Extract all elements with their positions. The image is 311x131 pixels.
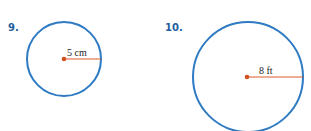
radius-label-9: 5 cm [67,47,87,58]
center-dot-9 [62,57,67,62]
center-dot-10 [245,75,250,80]
circle-figure-10: 8 ft [193,22,303,131]
circle-figure-9: 5 cm [27,22,101,96]
radius-label-10: 8 ft [259,65,273,76]
diagram-canvas: 5 cm 8 ft [0,0,311,131]
